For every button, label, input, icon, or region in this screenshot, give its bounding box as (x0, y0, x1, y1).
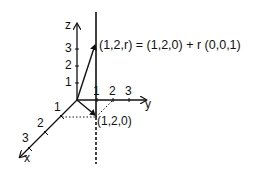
y-tick-label: 3 (125, 84, 132, 98)
diagram-svg: z y x 3 2 1 1 2 3 1 2 3 (1,2,r) = (1,2,0… (0, 0, 257, 173)
line-diagram: z y x 3 2 1 1 2 3 1 2 3 (1,2,r) = (1,2,0… (0, 0, 257, 173)
y-axis-label: y (145, 97, 151, 111)
x-axis-label: x (24, 151, 30, 165)
x-axis (20, 100, 77, 157)
z-tick-label: 3 (65, 41, 72, 55)
z-tick-label: 2 (65, 58, 72, 72)
x-ticks (28, 115, 64, 151)
x-tick-label: 3 (22, 131, 29, 145)
equation-label: (1,2,r) = (1,2,0) + r (0,0,1) (99, 38, 241, 52)
z-tick-label: 1 (65, 75, 72, 89)
base-point-label: (1,2,0) (97, 114, 132, 128)
x-tick-label: 2 (37, 116, 44, 130)
y-tick-label: 1 (93, 84, 100, 98)
y-tick-label: 2 (109, 84, 116, 98)
z-axis-label: z (65, 18, 71, 32)
x-tick-label: 1 (54, 100, 61, 114)
vector-base (77, 100, 95, 115)
